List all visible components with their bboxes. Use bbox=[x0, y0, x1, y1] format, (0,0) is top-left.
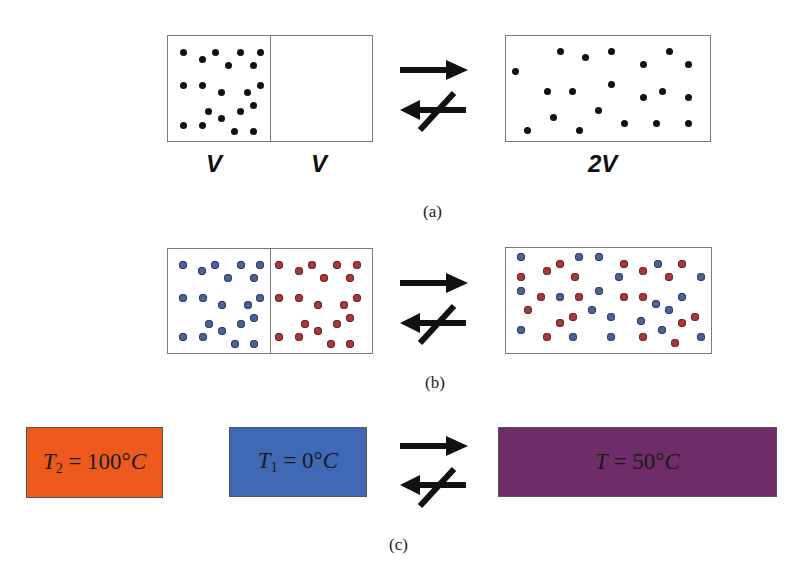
black-particle bbox=[659, 88, 666, 95]
black-particle bbox=[512, 68, 519, 75]
blue-particle bbox=[179, 261, 187, 269]
black-particle bbox=[640, 61, 647, 68]
black-particle bbox=[557, 48, 564, 55]
blue-particle bbox=[179, 294, 187, 302]
red-particle bbox=[639, 333, 647, 341]
blue-particle bbox=[231, 340, 239, 348]
black-particle bbox=[225, 62, 232, 69]
blue-particle bbox=[588, 306, 596, 314]
blue-particle bbox=[224, 274, 232, 282]
forward-arrow-icon bbox=[400, 436, 468, 456]
black-particle bbox=[244, 89, 251, 96]
blocked-reverse-arrow-icon bbox=[400, 469, 466, 506]
red-particle bbox=[691, 313, 699, 321]
black-particle bbox=[218, 89, 225, 96]
red-particle bbox=[295, 267, 303, 275]
red-particle bbox=[639, 267, 647, 275]
red-particle bbox=[295, 294, 303, 302]
blue-particle bbox=[654, 260, 662, 268]
red-particle bbox=[665, 273, 673, 281]
black-particle bbox=[199, 56, 206, 63]
black-particle bbox=[544, 88, 551, 95]
black-particle bbox=[250, 128, 257, 135]
red-particle bbox=[327, 340, 335, 348]
black-particle bbox=[257, 82, 264, 89]
blue-particle bbox=[250, 340, 258, 348]
red-particle bbox=[333, 261, 341, 269]
forward-arrow-icon bbox=[400, 273, 468, 293]
panel-a-initial-container bbox=[167, 35, 373, 142]
blue-particle bbox=[652, 300, 660, 308]
blue-particle bbox=[697, 273, 705, 281]
black-particle bbox=[569, 88, 576, 95]
black-particle bbox=[524, 127, 531, 134]
blue-particle bbox=[569, 333, 577, 341]
red-particle bbox=[346, 340, 354, 348]
blue-particle bbox=[595, 287, 603, 295]
blue-particle bbox=[218, 301, 226, 309]
blue-particle bbox=[665, 306, 673, 314]
black-particle bbox=[685, 61, 692, 68]
black-particle bbox=[640, 94, 647, 101]
volume-label-right: V bbox=[311, 150, 327, 178]
red-particle bbox=[569, 313, 577, 321]
irreversible-arrows-c bbox=[398, 434, 470, 508]
blue-particle bbox=[256, 261, 264, 269]
red-particle bbox=[308, 261, 316, 269]
volume-label-result: 2V bbox=[588, 150, 617, 178]
black-particle bbox=[231, 128, 238, 135]
caption-c: (c) bbox=[389, 535, 408, 555]
black-particle bbox=[237, 49, 244, 56]
caption-b: (b) bbox=[425, 373, 445, 393]
black-particle bbox=[608, 81, 615, 88]
blue-particle bbox=[615, 273, 623, 281]
black-particle bbox=[218, 115, 225, 122]
red-particle bbox=[678, 260, 686, 268]
blue-particle bbox=[658, 326, 666, 334]
red-particle bbox=[575, 293, 583, 301]
blue-particle bbox=[199, 294, 207, 302]
forward-arrow-icon bbox=[400, 60, 468, 80]
blocked-reverse-arrow-icon bbox=[400, 306, 466, 343]
irreversible-arrows-a bbox=[398, 58, 470, 132]
cold-temperature-label: T1 = 0°C bbox=[258, 448, 338, 476]
red-particle bbox=[556, 260, 564, 268]
equilibrium-temperature-label: T = 50°C bbox=[595, 449, 680, 475]
irreversible-arrows-b bbox=[398, 271, 470, 345]
black-particle bbox=[608, 48, 615, 55]
black-particle bbox=[550, 114, 557, 121]
red-particle bbox=[353, 294, 361, 302]
blue-particle bbox=[205, 320, 213, 328]
blue-particle bbox=[575, 253, 583, 261]
black-particle bbox=[250, 102, 257, 109]
black-particle bbox=[257, 49, 264, 56]
blocked-reverse-arrow-icon bbox=[400, 93, 466, 130]
black-particle bbox=[199, 122, 206, 129]
red-particle bbox=[537, 293, 545, 301]
red-particle bbox=[295, 333, 303, 341]
black-particle bbox=[595, 107, 602, 114]
red-particle bbox=[275, 261, 283, 269]
blue-particle bbox=[517, 326, 525, 334]
black-particle bbox=[250, 62, 257, 69]
red-particle bbox=[639, 293, 647, 301]
blue-particle bbox=[218, 327, 226, 335]
black-particle bbox=[237, 108, 244, 115]
blue-particle bbox=[595, 253, 603, 261]
blue-particle bbox=[556, 293, 564, 301]
red-particle bbox=[620, 293, 628, 301]
blue-particle bbox=[607, 333, 615, 341]
blue-particle bbox=[250, 274, 258, 282]
red-particle bbox=[524, 306, 532, 314]
blue-particle bbox=[697, 333, 705, 341]
blue-particle bbox=[637, 317, 645, 325]
volume-label-left: V bbox=[206, 150, 222, 178]
red-particle bbox=[340, 301, 348, 309]
black-particle bbox=[666, 48, 673, 55]
partition-wall bbox=[270, 249, 271, 353]
blue-particle bbox=[244, 301, 252, 309]
blue-particle bbox=[237, 320, 245, 328]
black-particle bbox=[180, 49, 187, 56]
black-particle bbox=[621, 120, 628, 127]
red-particle bbox=[346, 314, 354, 322]
